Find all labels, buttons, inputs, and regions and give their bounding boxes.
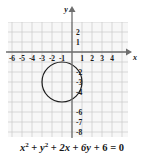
y-tick-label: 2 xyxy=(76,28,80,37)
figure-panel: -6-5-4-3-2-11234 21-2-3-4-6-7-8 x y x2 +… xyxy=(0,0,144,159)
y-tick-label: -3 xyxy=(76,78,82,87)
eq-term-6y: 6y xyxy=(81,142,91,153)
x-tick-label: -4 xyxy=(29,54,35,63)
x-tick-label: 4 xyxy=(110,54,114,63)
x-tick-label: -5 xyxy=(19,54,25,63)
eq-plus-1: + xyxy=(29,142,40,153)
equation-caption: x2 + y2 + 2x + 6y + 6 = 0 xyxy=(0,142,144,153)
minor-gridlines xyxy=(8,22,128,137)
eq-plus-2: + xyxy=(48,142,59,153)
x-tick-label: -2 xyxy=(49,54,55,63)
y-tick-label: -8 xyxy=(76,128,82,137)
coordinate-plane-graph: -6-5-4-3-2-11234 21-2-3-4-6-7-8 x y xyxy=(0,0,144,140)
eq-plus-3: + xyxy=(70,142,81,153)
x-tick-label: -6 xyxy=(9,54,15,63)
x-tick-label: -3 xyxy=(39,54,45,63)
y-tick-label: -6 xyxy=(76,108,82,117)
eq-equals: = xyxy=(108,142,119,153)
x-tick-label: 1 xyxy=(80,54,84,63)
eq-plus-4: + xyxy=(91,142,102,153)
x-tick-label: 2 xyxy=(90,54,94,63)
eq-term-2x: 2x xyxy=(59,142,70,153)
eq-rhs: 0 xyxy=(119,142,124,153)
y-tick-label: -7 xyxy=(76,118,82,127)
y-tick-label: -2 xyxy=(76,68,82,77)
y-axis-label: y xyxy=(63,5,68,14)
x-tick-label: 3 xyxy=(100,54,104,63)
y-tick-label: -4 xyxy=(76,88,82,97)
x-tick-label: -1 xyxy=(59,54,65,63)
x-axis-label: x xyxy=(132,53,137,62)
y-tick-label: 1 xyxy=(76,38,80,47)
